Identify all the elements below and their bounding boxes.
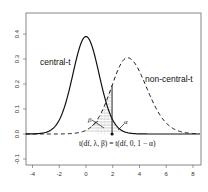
x-tick-label: -2 [57,171,63,177]
y-tick-label: 0.3 [14,54,20,63]
x-tick-label: 0 [84,171,88,177]
central-t-label: central-t [40,57,71,67]
non-central-t-label: non-central-t [145,74,193,84]
y-tick-label: 0.1 [14,104,20,113]
y-tick-label: 0.2 [14,79,20,88]
critical-value-point [110,132,113,135]
critical-value-label: t(df, λ, β) = t(df, 0, 1 − α) [79,139,156,148]
density-curves [26,37,200,136]
x-tick-label: 2 [111,171,115,177]
y-tick-label: -0.1 [14,153,20,164]
y-tick-label: 0.4 [14,29,20,38]
alpha-label: α [124,118,128,126]
y-tick-label: 0.0 [14,129,20,138]
non-central-t-curve [26,58,200,134]
x-tick-label: 8 [191,171,195,177]
x-tick-label: 6 [165,171,169,177]
x-tick-label: -4 [30,171,36,177]
t-distribution-chart: -4-202468-0.10.00.10.20.30.4 central-t n… [0,0,208,192]
beta-label: β [87,116,92,124]
central-t-curve [26,37,200,135]
axis-ticks: -4-202468-0.10.00.10.20.30.4 [14,29,195,177]
x-tick-label: 4 [138,171,142,177]
